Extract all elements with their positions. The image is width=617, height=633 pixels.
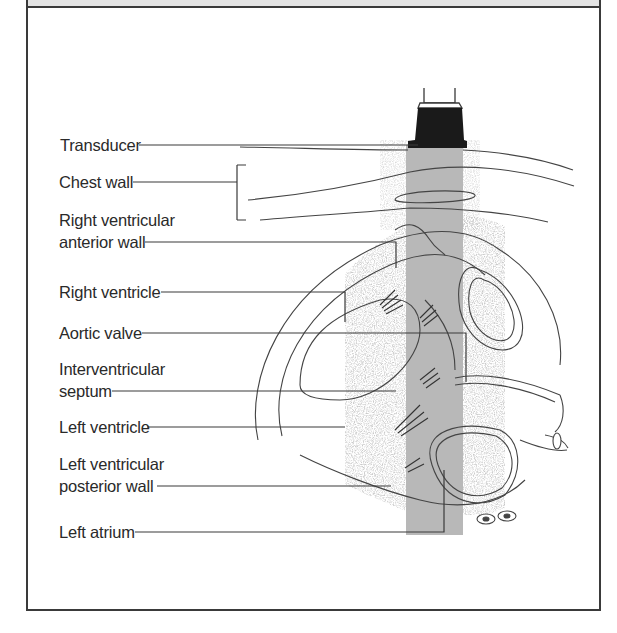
label-lv-posterior-wall-line2: posterior wall [59, 475, 153, 497]
label-rv-anterior-wall-line2: anterior wall [59, 231, 145, 253]
label-left-ventricle: Left ventricle [59, 416, 150, 438]
label-chest-wall: Chest wall [59, 171, 133, 193]
label-left-atrium: Left atrium [59, 521, 135, 543]
label-transducer: Transducer [60, 134, 141, 156]
transducer-probe [408, 88, 467, 148]
label-interventricular-septum-line2: septum [59, 380, 112, 402]
ultrasound-beam [406, 145, 463, 535]
label-rv-anterior-wall-line1: Right ventricular [59, 209, 175, 231]
label-right-ventricle: Right ventricle [59, 281, 161, 303]
label-interventricular-septum-line1: Interventricular [59, 358, 165, 380]
label-aortic-valve: Aortic valve [59, 322, 142, 344]
label-lv-posterior-wall-line1: Left ventricular [59, 453, 164, 475]
